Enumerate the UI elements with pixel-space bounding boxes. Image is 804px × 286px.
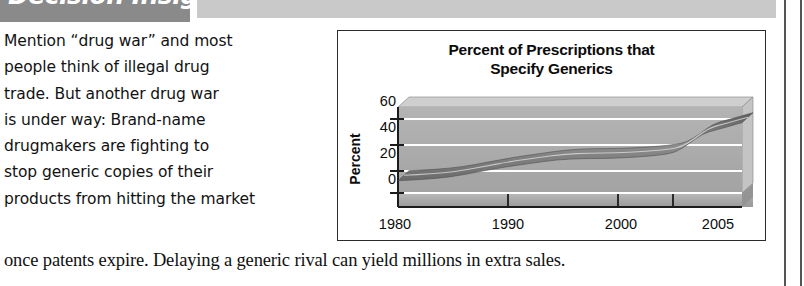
page-rule-outer (800, 0, 802, 286)
page-rule-inner (784, 0, 786, 286)
chart-plot-area: Percent 60 40 20 0 1980 1990 2000 2005 (338, 31, 767, 242)
article-body: Mention “drug war” and most people think… (4, 28, 334, 212)
body-line: drugmakers are fighting to (4, 133, 334, 159)
body-line: products from hitting the market (4, 186, 334, 212)
chart-wall-right (742, 97, 753, 193)
body-line: stop generic copies of their (4, 159, 334, 185)
chart-wall-top (398, 97, 753, 107)
body-line: trade. But another drug war (4, 81, 334, 107)
banner-accent-strip (196, 0, 776, 18)
chart-canvas (338, 31, 767, 242)
body-line: people think of illegal drug (4, 54, 334, 80)
article-closing-line: once patents expire. Delaying a generic … (4, 250, 794, 271)
chart-figure: Percent of Prescriptions that Specify Ge… (337, 30, 766, 241)
body-line: is under way: Brand-name (4, 107, 334, 133)
chart-floor-front (398, 193, 742, 207)
banner-title: Decision Insight (8, 0, 190, 10)
page-banner: Decision Insight (0, 0, 804, 22)
body-line: Mention “drug war” and most (4, 28, 334, 54)
banner-title-block: Decision Insight (0, 0, 190, 22)
banner-strip-divider (196, 0, 197, 18)
